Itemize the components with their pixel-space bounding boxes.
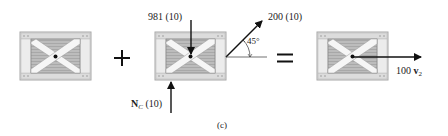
applied-impulse-value: 200 (10)	[268, 11, 302, 22]
normal-subscript: C	[138, 103, 143, 111]
angle-label: 45°	[247, 37, 260, 46]
crate-initial	[20, 32, 91, 80]
equals-operator	[277, 55, 293, 62]
applied-impulse-label: 200 (10)	[268, 12, 302, 22]
impulse-momentum-diagram	[0, 0, 448, 136]
velocity-subscript: 2	[419, 70, 423, 78]
normal-impulse-label: NC (10)	[131, 99, 162, 111]
final-momentum-label: 100 v2	[396, 66, 422, 78]
figure-caption: (c)	[217, 121, 227, 130]
angle-value: 45°	[247, 36, 260, 46]
weight-impulse-value: 981 (10)	[148, 11, 182, 22]
crate-final	[317, 32, 388, 80]
momentum-coefficient: 100	[396, 65, 414, 76]
normal-impulse-value: (10)	[145, 98, 162, 109]
weight-impulse-label: 981 (10)	[148, 12, 182, 22]
plus-operator	[114, 50, 130, 66]
